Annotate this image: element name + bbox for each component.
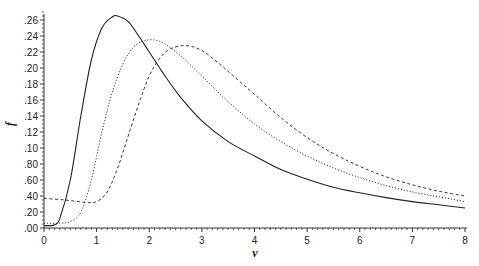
x-axis-title: v <box>252 246 258 260</box>
y-tick-label: .18 <box>24 79 38 90</box>
line-chart: .00.20.40.60.80.10.12.14.16.18.20.22.24.… <box>0 0 479 266</box>
y-tick-label: .14 <box>24 111 38 122</box>
x-tick-label: 1 <box>94 235 100 246</box>
y-tick-label: .80 <box>24 159 38 170</box>
y-tick-label: .60 <box>24 175 38 186</box>
y-tick-label: .10 <box>24 143 38 154</box>
y-tick-label: .20 <box>24 207 38 218</box>
y-tick-label: .12 <box>24 127 38 138</box>
y-tick-label: .22 <box>24 47 38 58</box>
y-tick-label: .40 <box>24 191 38 202</box>
x-tick-label: 3 <box>199 235 205 246</box>
y-tick-label: .20 <box>24 63 38 74</box>
x-tick-label: 8 <box>462 235 468 246</box>
series-solid-line <box>44 15 465 225</box>
y-axis-title: f <box>3 121 17 126</box>
x-tick-label: 4 <box>252 235 258 246</box>
y-tick-label: .00 <box>24 223 38 234</box>
x-axis: 012345678 <box>41 228 468 246</box>
x-tick-label: 7 <box>410 235 416 246</box>
x-tick-label: 2 <box>146 235 152 246</box>
x-tick-label: 0 <box>41 235 47 246</box>
y-tick-label: .16 <box>24 95 38 106</box>
y-tick-label: .24 <box>24 31 38 42</box>
y-tick-label: .26 <box>24 15 38 26</box>
x-tick-label: 6 <box>357 235 363 246</box>
x-tick-label: 5 <box>304 235 310 246</box>
series-dotted-line <box>44 40 465 224</box>
series-group <box>44 15 465 225</box>
y-axis: .00.20.40.60.80.10.12.14.16.18.20.22.24.… <box>24 12 44 234</box>
